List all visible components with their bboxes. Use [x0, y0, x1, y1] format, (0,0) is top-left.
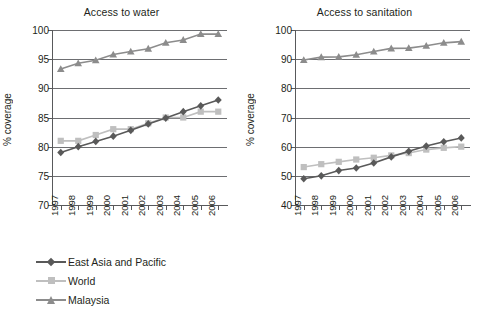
legend-item[interactable]: World [36, 271, 256, 290]
x-tick-mark [461, 206, 462, 210]
y-axis-label-water: % coverage [2, 72, 16, 168]
y-tick-label: 70 [38, 200, 49, 211]
x-tick-mark [356, 206, 357, 210]
x-axis-labels-water: 1997199819992000200120022003200420052006 [52, 206, 227, 250]
data-point-marker [440, 138, 447, 146]
x-tick-label: 1999 [326, 195, 337, 216]
x-tick-mark [426, 206, 427, 210]
panel-title-sanitation: Access to sanitation [243, 6, 486, 18]
x-tick-label: 1998 [309, 195, 320, 216]
y-tick-label: 40 [281, 200, 292, 211]
data-point-marker [197, 102, 204, 110]
panel-title-water: Access to water [0, 6, 243, 18]
y-tick-label: 90 [38, 83, 49, 94]
x-tick-mark [391, 206, 392, 210]
data-point-marker [75, 143, 82, 151]
x-tick-mark [96, 206, 97, 210]
x-tick-label: 1998 [66, 195, 77, 216]
y-tick-label: 100 [32, 25, 49, 36]
legend-item[interactable]: Malaysia [36, 290, 256, 309]
x-axis-labels-sanitation: 1997199819992000200120022003200420052006 [295, 206, 470, 250]
legend-marker [47, 296, 55, 304]
figure: Access to water % coverage 7075808590951… [0, 0, 486, 310]
x-tick-label: 1999 [83, 195, 94, 216]
y-tick-label: 85 [38, 112, 49, 123]
data-point-marker [318, 172, 325, 180]
y-tick-label: 90 [281, 54, 292, 65]
x-tick-label: 1997 [291, 195, 302, 216]
x-tick-label: 2001 [118, 195, 129, 216]
x-tick-mark [374, 206, 375, 210]
legend-label: World [68, 275, 95, 287]
y-axis-label-sanitation: % coverage [245, 72, 259, 168]
data-point-marker [458, 134, 465, 142]
x-tick-mark [409, 206, 410, 210]
data-point-marker [335, 167, 342, 175]
data-point-marker [215, 96, 222, 104]
y-tick-label: 100 [275, 25, 292, 36]
y-tick-label: 50 [281, 170, 292, 181]
y-tick-label: 60 [281, 141, 292, 152]
data-point-marker [353, 156, 359, 162]
legend-marker-triangle-icon [36, 294, 66, 306]
data-point-marker [336, 159, 342, 165]
x-tick-mark [166, 206, 167, 210]
x-tick-mark [183, 206, 184, 210]
legend-label: East Asia and Pacific [68, 256, 166, 268]
legend-marker-diamond-icon [36, 256, 66, 268]
data-point-marker [300, 175, 307, 183]
data-point-marker [180, 108, 187, 116]
x-tick-label: 2001 [361, 195, 372, 216]
x-tick-label: 1997 [48, 195, 59, 216]
data-point-marker [57, 149, 64, 157]
x-tick-label: 2000 [344, 195, 355, 216]
x-tick-label: 2000 [101, 195, 112, 216]
x-tick-label: 2002 [136, 195, 147, 216]
x-tick-mark [304, 206, 305, 210]
data-point-marker [215, 109, 221, 115]
x-tick-label: 2006 [206, 195, 217, 216]
x-tick-label: 2004 [171, 195, 182, 216]
y-tick-label: 80 [38, 141, 49, 152]
series-line [304, 138, 462, 179]
x-tick-mark [321, 206, 322, 210]
y-tick-label: 95 [38, 54, 49, 65]
data-point-marker [353, 164, 360, 172]
x-tick-label: 2002 [379, 195, 390, 216]
legend-marker [48, 277, 55, 284]
legend-item[interactable]: East Asia and Pacific [36, 252, 256, 271]
x-tick-label: 2005 [431, 195, 442, 216]
y-tick-label: 80 [281, 83, 292, 94]
series-line [304, 147, 462, 167]
series-line [304, 42, 462, 60]
x-tick-mark [444, 206, 445, 210]
legend-marker [47, 257, 55, 265]
data-point-marker [110, 126, 116, 132]
data-point-marker [318, 161, 324, 167]
y-tick-label: 75 [38, 170, 49, 181]
x-tick-mark [78, 206, 79, 210]
x-tick-label: 2006 [449, 195, 460, 216]
x-tick-mark [201, 206, 202, 210]
series-layer-water [52, 30, 227, 205]
data-point-marker [58, 138, 64, 144]
data-point-marker [441, 145, 447, 151]
y-tick-label: 70 [281, 112, 292, 123]
x-tick-mark [61, 206, 62, 210]
x-tick-mark [218, 206, 219, 210]
x-tick-label: 2005 [188, 195, 199, 216]
x-tick-mark [131, 206, 132, 210]
data-point-marker [110, 132, 117, 140]
data-point-marker [93, 132, 99, 138]
x-tick-label: 2004 [414, 195, 425, 216]
x-tick-mark [113, 206, 114, 210]
x-tick-label: 2003 [153, 195, 164, 216]
series-line [61, 112, 219, 141]
legend-marker-square-icon [36, 275, 66, 287]
data-point-marker [301, 164, 307, 170]
legend: East Asia and PacificWorldMalaysia [36, 252, 256, 309]
chart-panel-water: Access to water % coverage 7075808590951… [0, 0, 243, 250]
series-layer-sanitation [295, 30, 470, 205]
series-line [61, 34, 219, 69]
x-tick-mark [148, 206, 149, 210]
